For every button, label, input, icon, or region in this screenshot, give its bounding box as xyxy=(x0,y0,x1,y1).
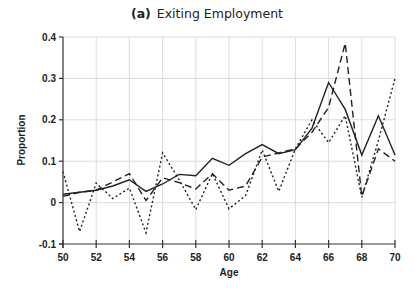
gridlines xyxy=(63,37,395,244)
x-tick-label: 68 xyxy=(356,252,368,263)
y-axis-label: Proportion xyxy=(16,114,27,165)
x-tick-label: 64 xyxy=(290,252,302,263)
x-tick-label: 62 xyxy=(257,252,269,263)
x-tick-label: 70 xyxy=(389,252,401,263)
y-tick-label: 0.1 xyxy=(42,156,56,167)
x-tick-label: 66 xyxy=(323,252,335,263)
y-tick-label: 0.3 xyxy=(42,73,56,84)
line-chart: -0.100.10.20.30.45052545658606264666870 … xyxy=(0,0,414,292)
x-tick-label: 54 xyxy=(124,252,136,263)
y-tick-label: 0 xyxy=(50,197,56,208)
x-tick-label: 58 xyxy=(190,252,202,263)
axes xyxy=(59,37,395,248)
y-tick-label: -0.1 xyxy=(39,239,57,250)
y-tick-label: 0.2 xyxy=(42,114,56,125)
x-tick-label: 56 xyxy=(157,252,169,263)
tick-labels: -0.100.10.20.30.45052545658606264666870 xyxy=(39,32,401,264)
x-tick-label: 52 xyxy=(91,252,103,263)
x-axis-label: Age xyxy=(220,267,239,278)
y-tick-label: 0.4 xyxy=(42,32,56,43)
x-tick-label: 60 xyxy=(223,252,235,263)
x-tick-label: 50 xyxy=(57,252,69,263)
